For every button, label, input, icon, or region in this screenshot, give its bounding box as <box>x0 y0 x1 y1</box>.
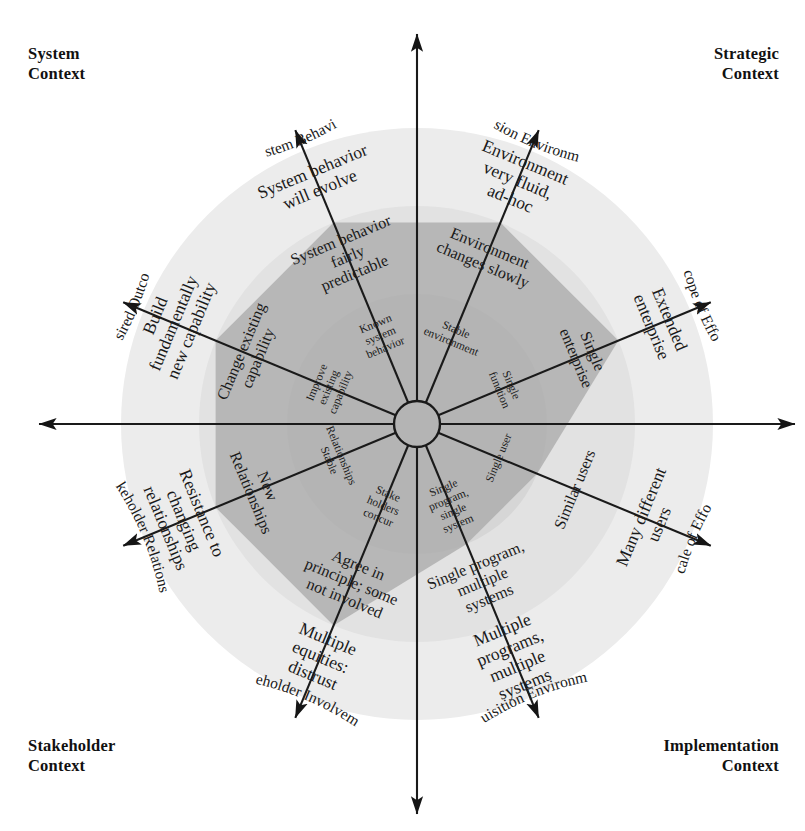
diagram-canvas: System Context Strategic Context Stakeho… <box>0 0 805 831</box>
axis-name-desired-outcome: Desired Outcome <box>0 0 152 343</box>
radar-chart: System BehaviorKnownsystembehaviorSystem… <box>0 0 805 831</box>
axis-name-system-behavior: System Behavior <box>0 0 340 160</box>
